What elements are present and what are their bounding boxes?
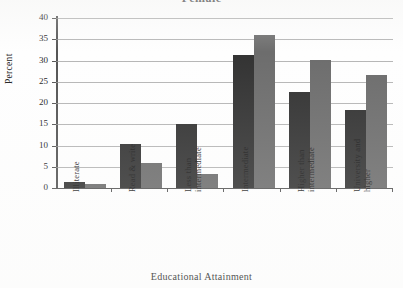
- y-tick-label: 40: [18, 13, 48, 22]
- x-tick-mark: [111, 188, 112, 192]
- y-tick-label: 35: [18, 34, 48, 43]
- y-tick-label: 20: [18, 98, 48, 107]
- chart-title: Female: [0, 0, 403, 6]
- bar: [85, 184, 106, 188]
- y-tick-label: 15: [18, 119, 48, 128]
- y-tick-label: 10: [18, 141, 48, 150]
- x-category-label: Higher than intermediate: [297, 82, 316, 192]
- bar-group: [112, 18, 168, 188]
- x-tick-mark: [336, 188, 337, 192]
- y-axis-title: Percent: [4, 53, 14, 84]
- x-axis-title: Educational Attainment: [0, 271, 403, 282]
- x-category-label: Intermediate: [241, 82, 251, 192]
- plot-area: 0510152025303540: [56, 18, 393, 188]
- bar: [254, 35, 275, 188]
- x-tick-mark: [223, 188, 224, 192]
- y-tick-label: 5: [18, 162, 48, 171]
- x-tick-mark: [280, 188, 281, 192]
- x-tick-mark: [392, 188, 393, 192]
- x-category-label: Read & write: [128, 82, 138, 192]
- chart-figure: Female Percent 0510152025303540 Illitera…: [0, 0, 403, 288]
- x-category-label: University and higher: [353, 82, 372, 192]
- y-tick-label: 0: [18, 183, 48, 192]
- bar: [141, 163, 162, 188]
- bar-group: [225, 18, 281, 188]
- y-tick-mark: [52, 188, 56, 189]
- bar-group: [56, 18, 112, 188]
- y-tick-label: 25: [18, 77, 48, 86]
- x-category-label: Illiterate: [72, 82, 82, 192]
- x-category-label: Less than intermediate: [184, 82, 203, 192]
- y-tick-label: 30: [18, 56, 48, 65]
- x-tick-mark: [167, 188, 168, 192]
